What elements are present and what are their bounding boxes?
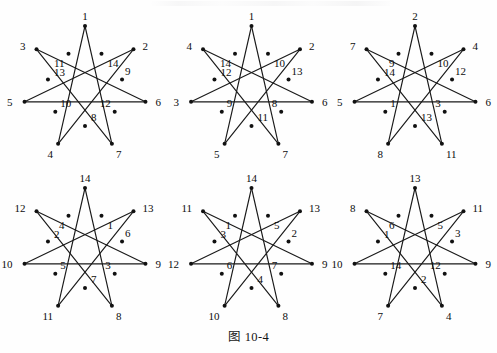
figure-caption: 图 10-4	[0, 326, 497, 345]
inner-node-label: 13	[292, 65, 304, 77]
inner-node-label: 4	[59, 219, 65, 231]
inner-node-label: 3	[455, 227, 461, 239]
inner-node-label: 8	[91, 111, 97, 123]
inner-node-label: 12	[455, 65, 466, 77]
inner-node-label: 12	[430, 259, 441, 271]
figure-3-star: 2461185710123131149	[333, 6, 497, 174]
outer-node-label: 7	[350, 40, 356, 52]
inner-node-label: 1	[107, 219, 113, 231]
figure-3-cell: 2461185710123131149	[333, 6, 497, 174]
outer-node-label: 6	[322, 96, 328, 108]
inner-node-label: 6	[125, 227, 131, 239]
inner-node-label: 12	[100, 97, 111, 109]
outer-node-label: 7	[378, 310, 384, 322]
figure-4-cell: 1413981110121637524	[0, 174, 170, 324]
outer-node-label: 14	[80, 172, 92, 184]
inner-node-label: 9	[389, 57, 395, 69]
inner-node-label: 14	[220, 57, 232, 69]
inner-node-label: 6	[389, 219, 395, 231]
outer-node-label: 1	[82, 10, 88, 22]
inner-node-label: 3	[435, 97, 441, 109]
outer-node-label: 9	[485, 258, 491, 270]
outer-node-label: 4	[48, 148, 54, 160]
inner-node-label: 10	[437, 57, 449, 69]
inner-node-label: 10	[60, 97, 72, 109]
inner-node-label: 2	[421, 273, 427, 285]
outer-node-label: 5	[214, 148, 220, 160]
outer-node-label: 11	[446, 148, 457, 160]
outer-node-label: 7	[116, 148, 122, 160]
inner-node-label: 7	[91, 273, 97, 285]
inner-node-label: 2	[292, 227, 298, 239]
outer-node-label: 5	[7, 96, 13, 108]
outer-node-label: 10	[209, 310, 221, 322]
inner-node-label: 14	[390, 259, 402, 271]
inner-node-label: 14	[107, 57, 119, 69]
outer-node-label: 9	[155, 258, 161, 270]
figure-6-cell: 1311947108531221416	[333, 174, 497, 324]
outer-node-label: 12	[168, 258, 179, 270]
outer-node-label: 5	[337, 96, 343, 108]
outer-node-label: 4	[446, 310, 452, 322]
outer-node-label: 13	[309, 202, 321, 214]
inner-node-label: 13	[421, 111, 433, 123]
figure-1-cell: 1267453149128101311	[0, 6, 170, 174]
outer-node-label: 4	[472, 40, 478, 52]
figure-5-star: 1413981012115274631	[170, 174, 333, 324]
outer-node-label: 8	[350, 202, 356, 214]
inner-node-label: 1	[390, 97, 396, 109]
outer-node-label: 2	[309, 40, 315, 52]
outer-node-label: 1	[249, 10, 255, 22]
outer-node-label: 13	[142, 202, 154, 214]
outer-node-label: 3	[20, 40, 26, 52]
inner-node-label: 10	[274, 57, 286, 69]
figure-2-cell: 1267534101381191214	[170, 6, 333, 174]
figure-2-star: 1267534101381191214	[170, 6, 333, 174]
figure-page: 1267453149128101311 1267534101381191214 …	[0, 0, 497, 353]
inner-node-label: 5	[60, 259, 66, 271]
inner-node-label: 3	[105, 259, 111, 271]
outer-node-label: 11	[181, 202, 192, 214]
inner-node-label: 9	[227, 97, 233, 109]
outer-node-label: 4	[187, 40, 193, 52]
outer-node-label: 11	[472, 202, 483, 214]
outer-node-label: 8	[116, 310, 122, 322]
outer-node-label: 2	[142, 40, 148, 52]
outer-node-label: 6	[155, 96, 161, 108]
figure-1-star: 1267453149128101311	[0, 6, 170, 174]
inner-node-label: 4	[258, 273, 264, 285]
inner-node-label: 11	[54, 57, 65, 69]
figure-grid: 1267453149128101311 1267534101381191214 …	[0, 6, 497, 324]
outer-node-label: 10	[2, 258, 14, 270]
outer-node-label: 12	[15, 202, 26, 214]
inner-node-label: 7	[272, 259, 278, 271]
outer-node-label: 6	[485, 96, 491, 108]
inner-node-label: 11	[258, 111, 269, 123]
outer-node-label: 14	[246, 172, 258, 184]
inner-node-label: 5	[274, 219, 280, 231]
inner-node-label: 6	[227, 259, 233, 271]
outer-node-label: 8	[378, 148, 384, 160]
figure-4-star: 1413981110121637524	[0, 174, 170, 324]
outer-node-label: 13	[410, 172, 422, 184]
inner-node-label: 1	[226, 219, 232, 231]
outer-node-label: 3	[174, 96, 180, 108]
outer-node-label: 8	[282, 310, 288, 322]
inner-node-label: 9	[125, 65, 131, 77]
outer-node-label: 2	[412, 10, 418, 22]
figure-5-cell: 1413981012115274631	[170, 174, 333, 324]
outer-node-label: 10	[332, 258, 344, 270]
outer-node-label: 9	[322, 258, 328, 270]
inner-node-label: 8	[272, 97, 278, 109]
figure-6-star: 1311947108531221416	[333, 174, 497, 324]
outer-node-label: 11	[43, 310, 54, 322]
outer-node-label: 7	[282, 148, 288, 160]
inner-node-label: 5	[437, 219, 443, 231]
